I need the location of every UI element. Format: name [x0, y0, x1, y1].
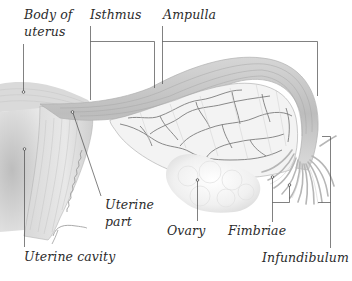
label-body-of-uterus-line1: Body of: [24, 6, 73, 23]
label-ovary: Ovary: [167, 222, 205, 239]
label-uterine-part: Uterine part: [105, 196, 154, 230]
label-infundibulum: Infundibulum: [262, 249, 349, 266]
label-fimbriae: Fimbriae: [228, 222, 286, 239]
label-isthmus: Isthmus: [90, 6, 141, 23]
label-body-of-uterus: Body of uterus: [24, 6, 73, 40]
fallopian-tube-diagram: Body of uterus Isthmus Ampulla Uterine p…: [0, 0, 352, 281]
label-uterine-cavity: Uterine cavity: [24, 248, 115, 265]
label-uterine-part-line1: Uterine: [105, 196, 154, 213]
label-uterine-part-line2: part: [105, 213, 154, 230]
label-body-of-uterus-line2: uterus: [24, 23, 73, 40]
label-ampulla: Ampulla: [163, 6, 216, 23]
